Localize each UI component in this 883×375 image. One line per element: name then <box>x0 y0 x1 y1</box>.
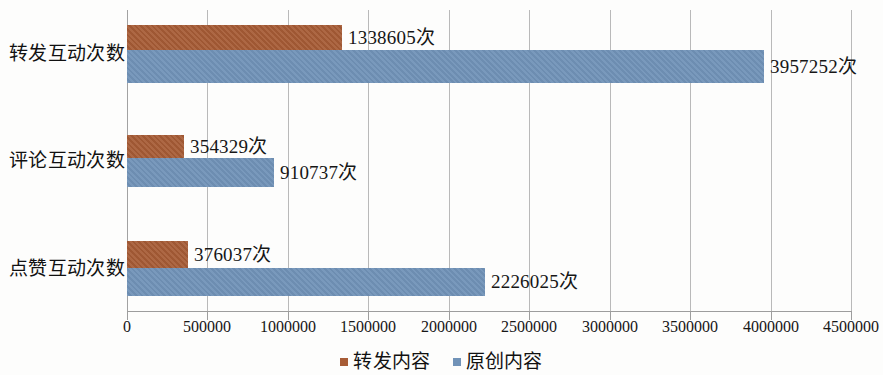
category-label-0: 转发互动次数 <box>0 44 125 63</box>
bar-1-2 <box>127 268 485 296</box>
legend-label: 转发内容 <box>353 352 430 371</box>
bar-1-1 <box>127 158 274 187</box>
bar-0-0 <box>127 25 342 50</box>
value-label: 2226025次 <box>491 272 578 291</box>
category-label-2: 点赞互动次数 <box>0 259 125 278</box>
value-label: 910737次 <box>280 163 357 182</box>
value-label: 354329次 <box>190 137 267 156</box>
x-axis-tick-label: 4500000 <box>801 318 883 335</box>
bar-0-2 <box>127 241 188 268</box>
legend-label: 原创内容 <box>466 352 543 371</box>
value-label: 376037次 <box>194 245 271 264</box>
legend-item-1[interactable]: 原创内容 <box>453 352 543 371</box>
legend-item-0[interactable]: 转发内容 <box>340 352 430 371</box>
value-label: 3957252次 <box>770 57 857 76</box>
category-label-1: 评论互动次数 <box>0 151 125 170</box>
value-label: 1338605次 <box>348 28 435 47</box>
legend-swatch-icon <box>453 358 461 366</box>
plot-area <box>127 10 851 312</box>
legend-swatch-icon <box>340 358 348 366</box>
bar-chart: 转发互动次数评论互动次数点赞互动次数 转发内容原创内容 050000010000… <box>0 0 883 375</box>
x-axis-line <box>127 311 852 312</box>
chart-legend: 转发内容原创内容 <box>0 352 883 371</box>
bar-1-0 <box>127 50 764 83</box>
bar-0-1 <box>127 135 184 158</box>
